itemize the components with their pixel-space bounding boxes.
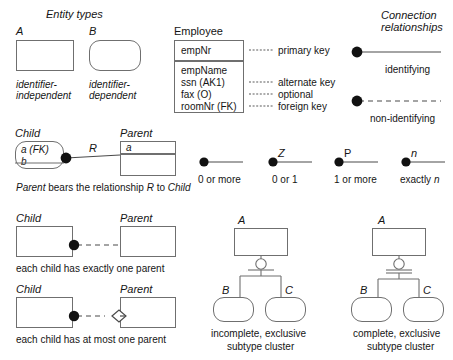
cluster2-subtype-c-label: C	[423, 285, 431, 296]
cluster2-subtype-c-box[interactable]	[403, 297, 444, 322]
cluster2-subtype-b-box[interactable]	[351, 297, 392, 322]
cluster2-caption-line2: subtype cluster	[367, 341, 434, 352]
cluster2-subtype-b-label: B	[360, 285, 367, 296]
cluster2-caption-line1: complete, exclusive	[353, 328, 440, 339]
